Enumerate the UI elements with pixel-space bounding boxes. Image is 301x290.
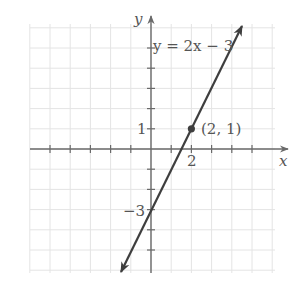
x-tick-label-2: 2 bbox=[187, 152, 197, 170]
point-2-1 bbox=[188, 125, 195, 132]
point-label: (2, 1) bbox=[201, 120, 241, 138]
y-tick-label-1: 1 bbox=[137, 120, 147, 138]
coordinate-plane: y x y = 2x − 3 (2, 1) 2 1 −3 bbox=[0, 0, 301, 290]
equation-label: y = 2x − 3 bbox=[152, 37, 233, 55]
y-axis-label: y bbox=[133, 10, 143, 28]
y-tick-label-neg3: −3 bbox=[123, 202, 145, 220]
x-axis-label: x bbox=[279, 152, 288, 170]
